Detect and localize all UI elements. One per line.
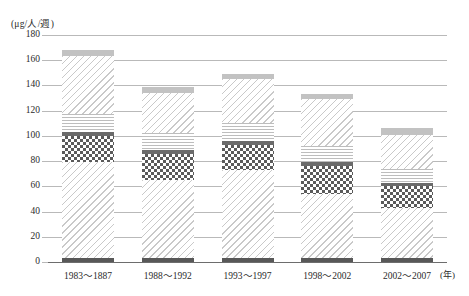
y-axis-tick-mark [42, 60, 48, 61]
y-axis-tick-label: 100 [0, 131, 40, 141]
chart-container: (μg/人/週) 180160140120100806040200 1983～1… [0, 0, 469, 296]
y-axis-tick-mark [42, 85, 48, 86]
bar-segment-upper-diagonal [62, 56, 114, 114]
axis-baseline [48, 262, 447, 263]
bar-segment-base-band [301, 258, 353, 262]
bar-segment-lower-diagonal [381, 208, 433, 258]
bar-segment-upper-diagonal [222, 79, 274, 123]
bar-segment-base-band [222, 258, 274, 262]
bar-segment-base-band [381, 258, 433, 262]
bar-segment-upper-diagonal [142, 93, 194, 133]
bar-segment-horizontal-lines [222, 123, 274, 141]
bar-segment-lower-diagonal [222, 170, 274, 258]
bar-segment-horizontal-lines [142, 133, 194, 149]
bar-segment-lower-diagonal [301, 194, 353, 258]
y-axis-tick-label: 180 [0, 30, 40, 40]
y-axis-tick-mark [42, 237, 48, 238]
x-axis-unit-label: (年) [440, 268, 455, 281]
y-axis-tick-mark [42, 35, 48, 36]
bar-segment-checkerboard [301, 166, 353, 194]
y-axis-tick-label: 0 [0, 257, 40, 267]
stacked-bar [222, 74, 274, 262]
y-axis-tick-label: 120 [0, 106, 40, 116]
y-axis-tick-mark [42, 212, 48, 213]
y-axis-unit-label: (μg/人/週) [11, 16, 54, 30]
y-axis-tick-mark [42, 161, 48, 162]
stacked-bar [62, 50, 114, 262]
y-axis-tick-label: 140 [0, 80, 40, 90]
stacked-bar [381, 128, 433, 262]
bar-segment-lower-diagonal [62, 162, 114, 258]
bar-segment-checkerboard [222, 145, 274, 170]
y-axis-tick-mark [42, 186, 48, 187]
bar-segment-base-band [142, 258, 194, 262]
y-axis-tick-label: 60 [0, 181, 40, 191]
y-axis-tick-label: 80 [0, 156, 40, 166]
y-axis-tick-mark [42, 111, 48, 112]
y-axis-tick-mark [42, 136, 48, 137]
bar-segment-checkerboard [381, 186, 433, 207]
stacked-bar [142, 87, 194, 262]
bar-segment-horizontal-lines [62, 114, 114, 132]
bar-segment-checkerboard [62, 136, 114, 162]
bar-segment-upper-diagonal [301, 99, 353, 146]
bar-segment-upper-diagonal [381, 135, 433, 169]
y-axis-tick-label: 160 [0, 55, 40, 65]
gridline [48, 35, 447, 36]
y-axis-tick-label: 20 [0, 232, 40, 242]
bar-segment-horizontal-lines [301, 146, 353, 162]
y-axis-tick-mark [42, 262, 48, 263]
stacked-bar [301, 94, 353, 262]
bar-segment-lower-diagonal [142, 180, 194, 258]
y-axis-tick-label: 40 [0, 207, 40, 217]
bar-segment-base-band [62, 258, 114, 262]
bar-segment-horizontal-lines [381, 169, 433, 183]
bar-segment-checkerboard [142, 154, 194, 180]
